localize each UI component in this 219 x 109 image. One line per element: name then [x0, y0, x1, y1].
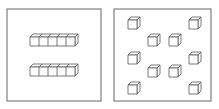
ten-rod: [30, 64, 78, 76]
tens-panel: [7, 9, 101, 101]
unit-cube: [128, 52, 140, 64]
diagram-canvas: [0, 0, 219, 109]
unit-cube: [189, 17, 201, 29]
ones-panel: [114, 9, 211, 101]
unit-cube: [169, 34, 181, 46]
unit-cube: [189, 82, 201, 94]
unit-cube: [148, 34, 160, 46]
base-ten-blocks-diagram: [0, 0, 219, 109]
tens-panel-frame: [7, 9, 101, 101]
unit-cube: [128, 82, 140, 94]
unit-cube: [128, 17, 140, 29]
unit-cube: [189, 52, 201, 64]
unit-cube: [169, 65, 181, 77]
unit-cube: [148, 65, 160, 77]
ten-rod: [30, 34, 78, 46]
